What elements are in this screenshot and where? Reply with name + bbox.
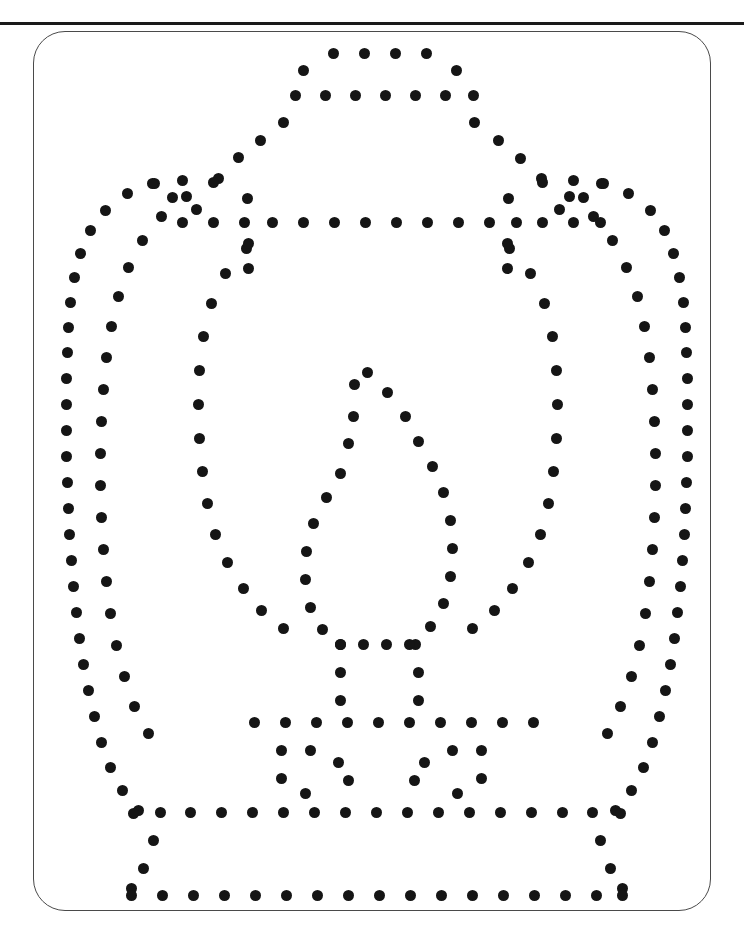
worksheet-page [0, 0, 744, 927]
top-horizontal-rule [0, 22, 744, 25]
rounded-card-border [33, 31, 711, 911]
